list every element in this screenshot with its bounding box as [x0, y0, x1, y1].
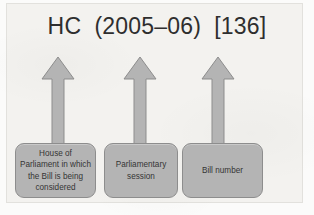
arrow-up-parliamentary-session	[122, 55, 158, 145]
caption-box-house-of-parliament: House of Parliament in which the Bill is…	[15, 143, 96, 198]
caption-label-house-of-parliament: House of Parliament in which the Bill is…	[20, 148, 91, 193]
citation-anatomy-figure: HC (2005–06) [136] House of Parliament i…	[0, 0, 314, 215]
caption-label-bill-number: Bill number	[187, 165, 258, 176]
citation-text: HC (2005–06) [136]	[0, 11, 314, 41]
arrow-up-house-of-parliament	[40, 55, 76, 145]
caption-label-parliamentary-session: Parliamentary session	[109, 159, 173, 181]
caption-box-bill-number: Bill number	[182, 143, 263, 198]
arrow-up-bill-number	[200, 55, 236, 145]
caption-box-parliamentary-session: Parliamentary session	[104, 143, 178, 198]
